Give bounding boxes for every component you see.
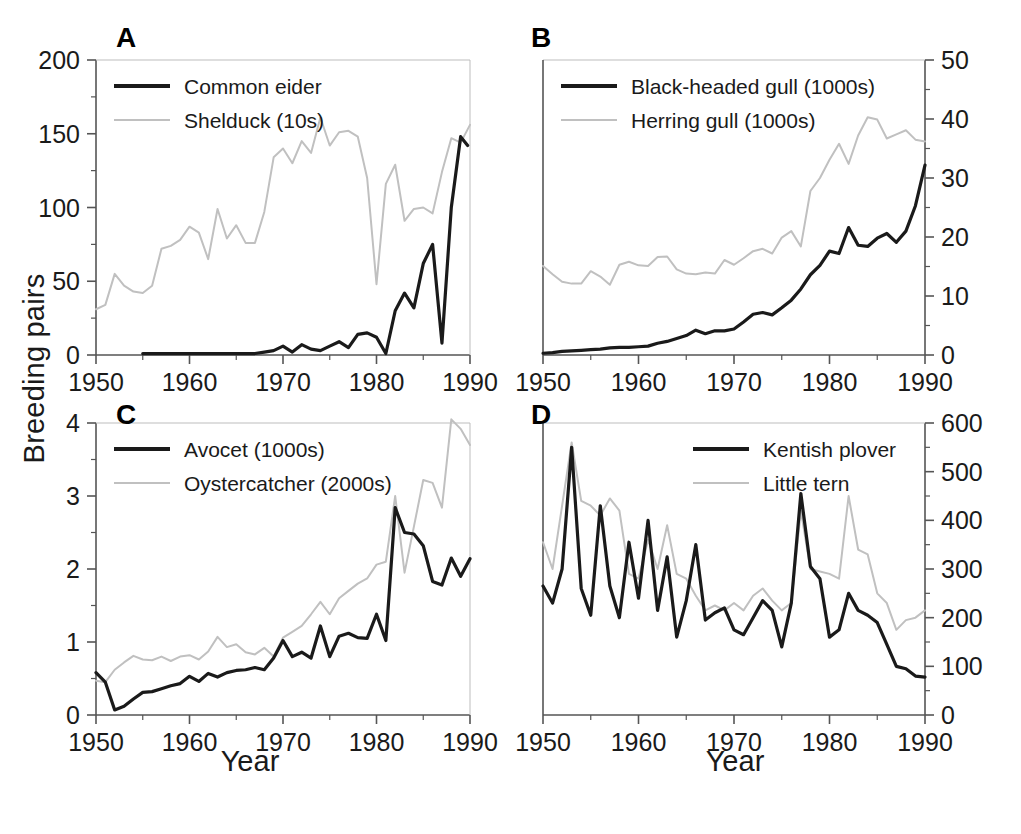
legend-label: Common eider: [184, 75, 322, 98]
series-line: [96, 508, 470, 710]
x-tick-label: 1960: [162, 368, 218, 396]
y-tick-label: 500: [941, 458, 983, 486]
panel-b-letter: B: [531, 22, 551, 54]
x-tick-label: 1990: [442, 728, 498, 756]
panel-b-plot: 0102030405019501960197019801990Black-hea…: [505, 0, 1021, 400]
y-tick-label: 400: [941, 506, 983, 534]
y-tick-label: 200: [38, 46, 80, 74]
panel-c-letter: C: [116, 399, 136, 431]
y-tick-label: 200: [941, 604, 983, 632]
x-tick-label: 1950: [68, 368, 124, 396]
y-tick-label: 3: [66, 482, 80, 510]
legend-label: Kentish plover: [763, 438, 896, 461]
series-line: [543, 447, 925, 677]
legend-label: Little tern: [763, 472, 849, 495]
x-tick-label: 1990: [897, 368, 953, 396]
series-line: [543, 165, 925, 353]
legend-label: Avocet (1000s): [184, 438, 325, 461]
panel-c-plot: 0123419501960197019801990Avocet (1000s)O…: [0, 395, 510, 795]
x-tick-label: 1950: [515, 368, 571, 396]
x-tick-label: 1990: [897, 728, 953, 756]
y-tick-label: 50: [941, 46, 969, 74]
legend-label: Herring gull (1000s): [631, 109, 815, 132]
series-line: [543, 442, 925, 629]
panel-d-letter: D: [531, 399, 551, 431]
y-tick-label: 100: [38, 194, 80, 222]
y-tick-label: 4: [66, 409, 80, 437]
y-tick-label: 100: [941, 652, 983, 680]
x-tick-label: 1960: [611, 368, 667, 396]
figure-root: Breeding pairs A 05010015020019501960197…: [0, 0, 1021, 834]
y-tick-label: 0: [66, 701, 80, 729]
x-axis-label-right: Year: [585, 745, 885, 778]
legend-label: Shelduck (10s): [184, 109, 324, 132]
series-line: [543, 117, 925, 285]
x-tick-label: 1980: [802, 368, 858, 396]
y-tick-label: 1: [66, 628, 80, 656]
x-tick-label: 1990: [442, 368, 498, 396]
y-tick-label: 0: [941, 341, 955, 369]
panel-a: A 05010015020019501960197019801990Common…: [0, 0, 510, 400]
legend-label: Black-headed gull (1000s): [631, 75, 875, 98]
y-tick-label: 40: [941, 105, 969, 133]
legend-label: Oystercatcher (2000s): [184, 472, 392, 495]
x-tick-label: 1970: [706, 368, 762, 396]
y-tick-label: 600: [941, 409, 983, 437]
y-tick-label: 20: [941, 223, 969, 251]
y-tick-label: 0: [941, 701, 955, 729]
panel-a-plot: 05010015020019501960197019801990Common e…: [0, 0, 510, 400]
series-line: [143, 137, 468, 354]
y-tick-label: 150: [38, 120, 80, 148]
panel-a-letter: A: [116, 22, 136, 54]
y-tick-label: 300: [941, 555, 983, 583]
y-tick-label: 50: [52, 267, 80, 295]
y-tick-label: 30: [941, 164, 969, 192]
y-tick-label: 0: [66, 341, 80, 369]
x-axis-label-left: Year: [100, 745, 400, 778]
x-tick-label: 1980: [349, 368, 405, 396]
y-tick-label: 10: [941, 282, 969, 310]
x-tick-label: 1970: [255, 368, 311, 396]
panel-c: C 0123419501960197019801990Avocet (1000s…: [0, 395, 510, 834]
series-line: [96, 118, 470, 310]
panel-b: B 0102030405019501960197019801990Black-h…: [505, 0, 1021, 400]
panel-d-plot: 010020030040050060019501960197019801990K…: [505, 395, 1021, 795]
x-tick-label: 1950: [515, 728, 571, 756]
panel-d: D 01002003004005006001950196019701980199…: [505, 395, 1021, 834]
y-tick-label: 2: [66, 555, 80, 583]
